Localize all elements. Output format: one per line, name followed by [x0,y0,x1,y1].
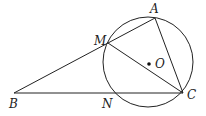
label-b: B [9,98,18,110]
label-a: A [150,3,159,15]
label-c: C [187,89,196,101]
label-m: M [94,35,106,47]
segment-mc [108,43,183,93]
label-o: O [155,58,165,70]
center-point-icon [147,62,151,66]
label-n: N [102,98,113,110]
geometry-diagram: A M O B N C [0,0,206,116]
segment-ba [14,18,155,93]
